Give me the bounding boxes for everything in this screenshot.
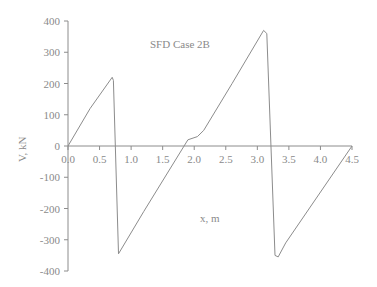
y-tick-label: 400 bbox=[44, 15, 61, 27]
x-tick-label: 2.5 bbox=[219, 153, 233, 165]
y-tick-label: 100 bbox=[44, 109, 61, 121]
y-tick-label: 300 bbox=[44, 46, 61, 58]
x-tick-label: 4.5 bbox=[345, 153, 359, 165]
y-tick-label: -400 bbox=[40, 265, 61, 277]
x-tick-label: 0.5 bbox=[93, 153, 107, 165]
y-tick-label: -100 bbox=[40, 171, 61, 183]
x-tick-label: 1.5 bbox=[156, 153, 170, 165]
x-tick-label: 3.5 bbox=[282, 153, 296, 165]
chart-title: SFD Case 2B bbox=[150, 38, 210, 50]
y-tick-label: -300 bbox=[40, 234, 61, 246]
y-tick-label: 200 bbox=[44, 78, 61, 90]
x-tick-label: 4.0 bbox=[314, 153, 328, 165]
y-axis-label: V, kN bbox=[16, 136, 28, 162]
sfd-chart: 4003002001000-100-200-300-4000.00.51.01.… bbox=[0, 0, 377, 287]
axes: 4003002001000-100-200-300-4000.00.51.01.… bbox=[40, 15, 360, 277]
x-tick-label: 2.0 bbox=[187, 153, 201, 165]
y-tick-label: -200 bbox=[40, 203, 61, 215]
x-tick-label: 3.0 bbox=[250, 153, 264, 165]
x-tick-label: 1.0 bbox=[124, 153, 138, 165]
x-tick-label: 0.0 bbox=[61, 153, 75, 165]
y-tick-label: 0 bbox=[55, 140, 61, 152]
x-axis-label: x, m bbox=[200, 212, 220, 224]
